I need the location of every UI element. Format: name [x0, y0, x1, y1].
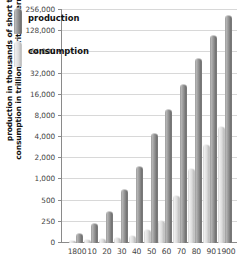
y-tick-mark	[58, 9, 62, 10]
y-tick-label: 8,000	[35, 111, 55, 120]
bar-production	[225, 15, 232, 243]
bar-production	[210, 35, 217, 243]
y-tick-mark	[58, 242, 62, 243]
y-tick-label: 250	[41, 217, 55, 226]
y-tick-mark	[58, 73, 62, 74]
bar-production	[76, 233, 83, 243]
y-tick-mark	[58, 178, 62, 179]
y-tick-label: 4,000	[35, 132, 55, 141]
bar-production	[121, 189, 128, 243]
legend-label-production: production	[28, 13, 79, 23]
bar-production	[91, 223, 98, 243]
y-tick-mark	[58, 30, 62, 31]
bar-production	[151, 133, 158, 243]
bar-consumption	[69, 240, 76, 243]
bar-production	[165, 109, 172, 243]
y-tick-label: 1,000	[35, 174, 55, 183]
legend-swatch-consumption-icon	[14, 41, 22, 67]
bar-consumption	[158, 220, 165, 243]
plot-area: 02505001,0002,0004,0008,00016,00032,0006…	[61, 10, 237, 243]
legend-label-consumption: consumption	[28, 46, 89, 56]
y-axis-title-line-1: production in thousands of short tons,	[5, 0, 14, 171]
bar-consumption	[188, 168, 195, 243]
y-tick-label: 0	[50, 238, 55, 247]
bar-consumption	[203, 144, 210, 243]
bar-production	[136, 166, 143, 243]
bar-consumption	[218, 126, 225, 243]
y-axis-line	[61, 10, 62, 243]
bar-production	[106, 211, 113, 243]
y-tick-label: 32,000	[30, 69, 55, 78]
y-tick-mark	[58, 115, 62, 116]
bar-consumption	[99, 238, 106, 243]
y-tick-label: 2,000	[35, 153, 55, 162]
bar-consumption	[84, 239, 91, 243]
bar-consumption	[114, 237, 121, 243]
y-tick-mark	[58, 94, 62, 95]
y-tick-label: 500	[41, 196, 55, 205]
y-tick-mark	[58, 157, 62, 158]
bar-production	[195, 58, 202, 243]
y-tick-mark	[58, 221, 62, 222]
y-tick-label: 16,000	[30, 90, 55, 99]
legend-swatch-production-icon	[14, 8, 22, 34]
bar-chart: production in thousands of short tons, c…	[0, 0, 239, 272]
bar-consumption	[173, 195, 180, 243]
x-tick-label: 1900	[211, 247, 239, 256]
gridline	[61, 30, 237, 31]
bar-consumption	[144, 229, 151, 243]
bar-consumption	[129, 235, 136, 243]
y-tick-mark	[58, 200, 62, 201]
y-tick-mark	[58, 136, 62, 137]
y-tick-label: 128,000	[26, 26, 55, 35]
bar-production	[180, 84, 187, 243]
gridline	[61, 9, 237, 10]
